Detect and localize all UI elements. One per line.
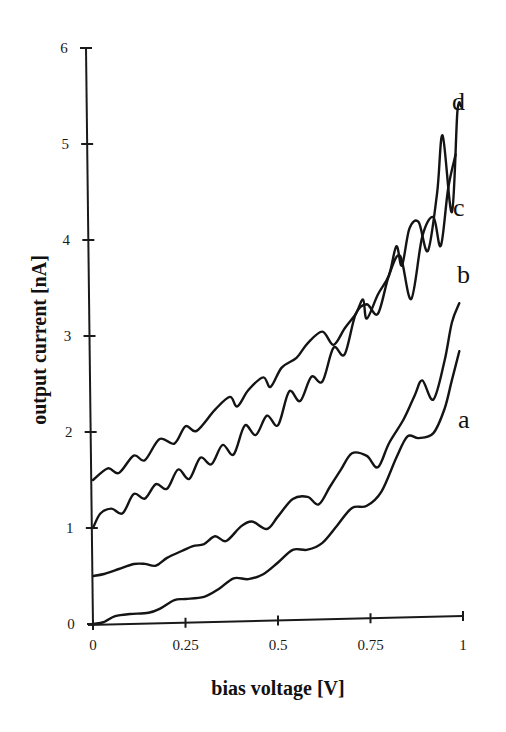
x-axis bbox=[88, 616, 463, 625]
y-tick-label: 6 bbox=[60, 40, 68, 56]
y-tick-label: 3 bbox=[64, 328, 72, 344]
curve-c bbox=[93, 155, 456, 529]
x-axis-title: bias voltage [V] bbox=[211, 677, 344, 700]
chart: 0123456 00.250.50.751 bias voltage [V] o… bbox=[0, 0, 506, 732]
y-tick-label: 2 bbox=[65, 424, 73, 440]
curve-a bbox=[93, 351, 459, 624]
x-tick-label: 0.75 bbox=[357, 637, 383, 653]
y-tick-label: 0 bbox=[67, 616, 75, 632]
y-tick-label: 4 bbox=[63, 232, 71, 248]
curve-d bbox=[93, 102, 461, 480]
series-label-c: c bbox=[453, 193, 465, 222]
x-tick-label: 1 bbox=[459, 637, 467, 653]
y-tick-label: 1 bbox=[66, 520, 74, 536]
y-axis-title: output current [nA] bbox=[28, 255, 51, 425]
series-label-a: a bbox=[458, 405, 470, 434]
x-tick-label: 0 bbox=[89, 637, 97, 653]
plot-curves bbox=[93, 102, 461, 624]
x-tick-label: 0.5 bbox=[269, 637, 288, 653]
y-axis-ticks: 0123456 bbox=[60, 40, 99, 632]
x-tick-label: 0.25 bbox=[172, 637, 198, 653]
series-label-b: b bbox=[457, 260, 470, 289]
series-label-d: d bbox=[452, 87, 465, 116]
y-tick-label: 5 bbox=[61, 136, 69, 152]
